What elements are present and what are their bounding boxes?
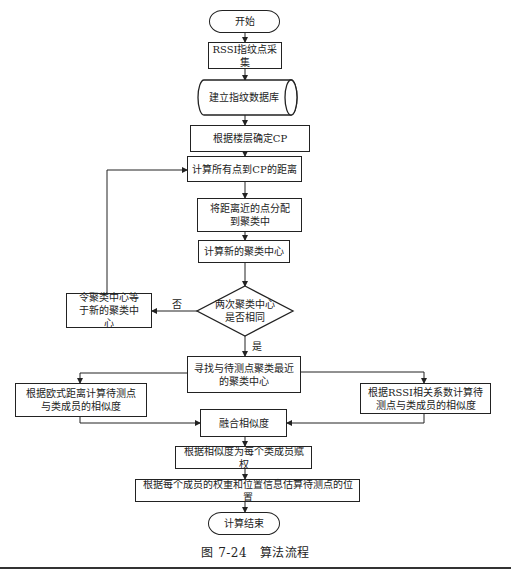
bottom-rule <box>0 567 511 569</box>
database-node: 建立指纹数据库 <box>198 80 290 115</box>
estimate-node: 根据每个成员的权重和位置信息估算待测点的位置 <box>135 479 360 502</box>
weights-node: 根据相似度为每个类成员赋权 <box>175 446 312 469</box>
determine-cp-node: 根据楼层确定CP <box>190 125 310 152</box>
assign-points-node: 将距离近的点分配到聚类中 <box>197 198 302 232</box>
decision-node: 两次聚类中心是否相同 <box>214 296 276 326</box>
figure-caption: 图 7-24 算法流程 <box>0 543 511 560</box>
yes-label: 是 <box>252 338 262 353</box>
new-center-node: 计算新的聚类中心 <box>198 240 290 263</box>
end-node: 计算结束 <box>208 512 280 535</box>
find-nearest-node: 寻找与待测点聚类最近的聚类中心 <box>187 356 301 393</box>
rssi-similarity-node: 根据RSSI相关系数计算待测点与类成员的相似度 <box>360 383 491 414</box>
merge-node: 融合相似度 <box>200 409 287 437</box>
collect-node: RSSI指纹点采集 <box>208 42 282 69</box>
calc-distance-node: 计算所有点到CP的距离 <box>187 156 302 182</box>
set-center-node: 令聚类中心等于新的聚类中心 <box>66 293 152 328</box>
no-label: 否 <box>172 296 182 311</box>
euclid-similarity-node: 根据欧式距离计算待测点与类成员的相似度 <box>15 383 147 417</box>
start-node: 开始 <box>209 10 280 33</box>
